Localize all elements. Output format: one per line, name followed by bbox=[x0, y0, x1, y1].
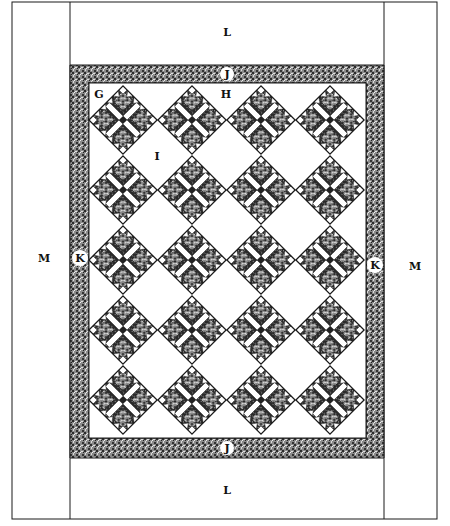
label-setting-square: I bbox=[154, 150, 159, 163]
label-right-border: M bbox=[409, 260, 421, 273]
label-right-inner-border: K bbox=[370, 259, 380, 272]
label-left-inner-border: K bbox=[75, 252, 85, 265]
label-block: G bbox=[94, 88, 103, 101]
label-left-border: M bbox=[38, 252, 50, 265]
label-bottom-inner-border: J bbox=[223, 442, 229, 455]
quilt-diagram: L L M M J J K K G H I bbox=[0, 0, 450, 526]
label-top-inner-border: J bbox=[223, 68, 229, 81]
label-setting-triangle: H bbox=[221, 88, 231, 101]
label-top-border: L bbox=[223, 26, 231, 39]
label-bottom-border: L bbox=[223, 484, 231, 497]
